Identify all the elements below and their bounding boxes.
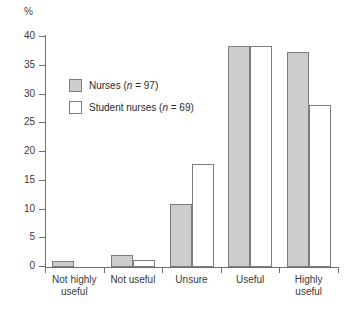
x-axis-line — [45, 267, 338, 268]
x-axis-category-label: Not highlyuseful — [45, 274, 104, 298]
bar — [309, 105, 331, 267]
legend-item: Nurses (n = 97) — [69, 76, 194, 94]
bar — [133, 260, 155, 267]
y-axis-tick-label: 15 — [0, 174, 35, 185]
x-axis-tick-mark — [45, 267, 46, 273]
legend-label: Nurses (n = 97) — [89, 80, 158, 91]
x-axis-category-label-line: Useful — [221, 274, 280, 286]
legend: Nurses (n = 97)Student nurses (n = 69) — [69, 76, 194, 120]
x-axis-tick-mark — [279, 267, 280, 273]
x-axis-category-label: Useful — [221, 274, 280, 286]
y-axis-tick-label: 35 — [0, 59, 35, 70]
x-axis-category-label: Highlyuseful — [279, 274, 338, 298]
legend-label: Student nurses (n = 69) — [89, 102, 194, 113]
bar-chart: % 0510152025303540 Not highlyusefulNot u… — [0, 0, 345, 309]
x-axis-category-label-line: Not highly — [45, 274, 104, 286]
x-axis-category-label-line: Highly — [279, 274, 338, 286]
x-axis-tick-mark — [221, 267, 222, 273]
bar — [192, 164, 214, 268]
y-axis-tick-label: 10 — [0, 203, 35, 214]
bar — [250, 46, 272, 267]
bar — [52, 261, 74, 267]
bar — [228, 46, 250, 267]
bars-layer — [45, 37, 338, 267]
x-axis-category-label-line: useful — [279, 286, 338, 298]
y-axis-tick-label: 30 — [0, 88, 35, 99]
y-axis-tick-label: 0 — [0, 260, 35, 271]
bar — [170, 204, 192, 267]
legend-item: Student nurses (n = 69) — [69, 98, 194, 116]
y-axis-unit-label: % — [24, 6, 33, 17]
y-axis-tick-label: 25 — [0, 116, 35, 127]
x-axis-tick-mark — [104, 267, 105, 273]
x-axis-category-label: Unsure — [162, 274, 221, 286]
y-axis-tick-label: 5 — [0, 231, 35, 242]
x-axis-tick-mark — [162, 267, 163, 273]
x-axis-category-label-line: useful — [45, 286, 104, 298]
legend-swatch — [69, 101, 82, 114]
y-axis-tick-label: 20 — [0, 145, 35, 156]
x-axis-category-label: Not useful — [104, 274, 163, 286]
y-axis-tick-label: 40 — [0, 30, 35, 41]
x-axis-category-label-line: Unsure — [162, 274, 221, 286]
x-axis-category-label-line: Not useful — [104, 274, 163, 286]
bar — [111, 255, 133, 267]
legend-swatch — [69, 79, 82, 92]
bar — [287, 52, 309, 267]
x-axis-tick-mark — [338, 267, 339, 273]
